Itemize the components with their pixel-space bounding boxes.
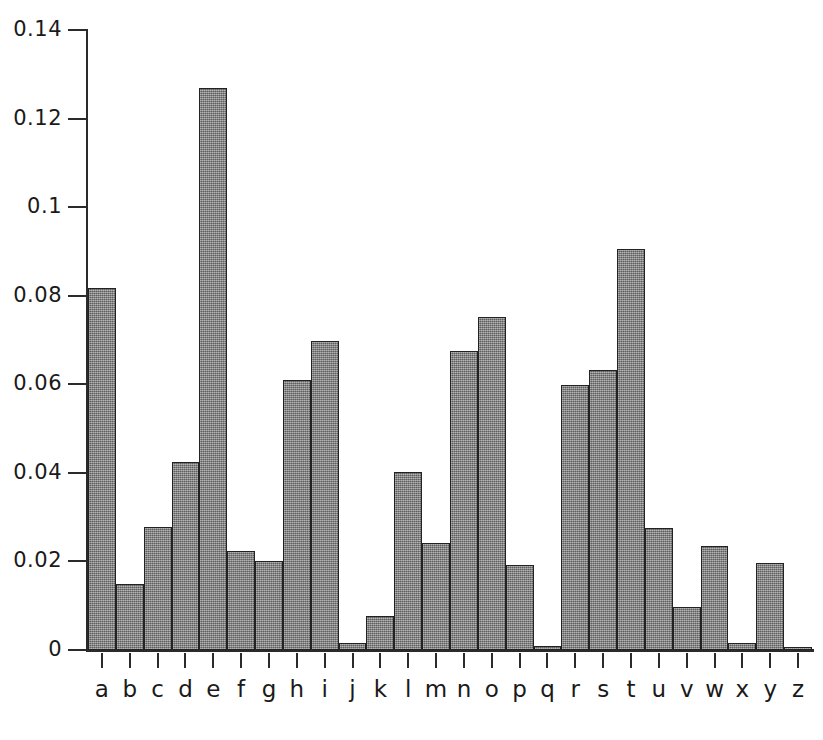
x-axis-tick <box>435 653 437 668</box>
bar-k <box>366 616 394 650</box>
y-axis-tick-label: 0 <box>2 639 62 660</box>
bar-d <box>172 462 200 650</box>
bar-v <box>673 607 701 650</box>
y-axis-tick-label-wrap: 0.08 <box>0 285 62 306</box>
bar-l <box>394 472 422 650</box>
y-axis-tick <box>68 472 88 474</box>
bar-p <box>506 565 534 650</box>
y-axis-tick-label: 0.04 <box>2 462 62 483</box>
x-axis-tick <box>268 653 270 668</box>
y-axis-tick <box>68 295 88 297</box>
x-axis-tick <box>602 653 604 668</box>
bar-g <box>255 561 283 650</box>
x-axis-tick <box>184 653 186 668</box>
x-axis-tick <box>741 653 743 668</box>
bar-x <box>728 643 756 650</box>
x-axis-tick <box>491 653 493 668</box>
bar-f <box>227 551 255 650</box>
x-axis-tick <box>101 653 103 668</box>
x-axis-tick <box>240 653 242 668</box>
y-axis-tick-label-wrap: 0 <box>0 639 62 660</box>
y-axis-tick <box>68 206 88 208</box>
x-axis-tick <box>574 653 576 668</box>
y-axis-tick-label: 0.14 <box>2 19 62 40</box>
y-axis-tick-label-wrap: 0.06 <box>0 373 62 394</box>
y-axis-tick <box>68 560 88 562</box>
y-axis-tick-label-wrap: 0.14 <box>0 19 62 40</box>
y-axis-tick-label-wrap: 0.12 <box>0 108 62 129</box>
y-axis-tick <box>68 383 88 385</box>
y-axis-tick-label: 0.12 <box>2 108 62 129</box>
x-axis-tick <box>379 653 381 668</box>
bar-j <box>339 643 367 650</box>
figure-caption <box>110 726 720 740</box>
y-axis-tick-label: 0.02 <box>2 550 62 571</box>
bar-w <box>701 546 729 651</box>
bar-b <box>116 584 144 650</box>
bar-q <box>534 646 562 650</box>
bar-o <box>478 317 506 650</box>
bar-t <box>617 249 645 650</box>
x-axis-tick <box>129 653 131 668</box>
x-axis-tick <box>546 653 548 668</box>
bar-c <box>144 527 172 650</box>
bar-u <box>645 528 673 650</box>
x-axis-tick <box>157 653 159 668</box>
bar-m <box>422 543 450 650</box>
x-axis-tick <box>212 653 214 668</box>
x-axis-tick <box>797 653 799 668</box>
y-axis-tick <box>68 118 88 120</box>
plot-area <box>88 30 812 650</box>
figure-letter-frequency-histogram: 00.020.040.060.080.10.120.14 abcdefghijk… <box>0 0 823 740</box>
y-axis-tick-label-wrap: 0.02 <box>0 550 62 571</box>
bar-n <box>450 351 478 650</box>
x-axis-tick-label-z: z <box>778 676 818 702</box>
x-axis-tick <box>686 653 688 668</box>
bar-s <box>589 370 617 650</box>
x-axis-tick <box>352 653 354 668</box>
bar-z <box>784 647 812 650</box>
bar-e <box>199 88 227 650</box>
x-axis-tick <box>658 653 660 668</box>
bar-a <box>88 288 116 650</box>
bar-y <box>756 563 784 650</box>
x-axis-tick <box>463 653 465 668</box>
y-axis-tick-label-wrap: 0.04 <box>0 462 62 483</box>
x-axis-tick <box>630 653 632 668</box>
bar-i <box>311 341 339 650</box>
x-axis-tick <box>324 653 326 668</box>
x-axis-tick <box>769 653 771 668</box>
x-axis-tick <box>519 653 521 668</box>
y-axis-tick <box>68 29 88 31</box>
y-axis-tick <box>68 649 88 651</box>
y-axis-tick-label-wrap: 0.1 <box>0 196 62 217</box>
x-axis-tick <box>407 653 409 668</box>
y-axis-tick-label: 0.06 <box>2 373 62 394</box>
x-axis-tick <box>296 653 298 668</box>
y-axis-tick-label: 0.08 <box>2 285 62 306</box>
bar-r <box>561 385 589 650</box>
y-axis-tick-label: 0.1 <box>2 196 62 217</box>
x-axis-tick <box>714 653 716 668</box>
bar-h <box>283 380 311 650</box>
